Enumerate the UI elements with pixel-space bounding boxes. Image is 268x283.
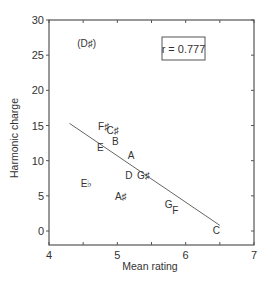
y-tick-label: 5	[38, 190, 44, 202]
point-label: A	[128, 150, 135, 161]
x-tick-label: 7	[251, 249, 257, 261]
y-tick-label: 30	[32, 14, 44, 26]
y-tick-label: 20	[32, 84, 44, 96]
scatter-chart: 051015202530 4567 (D♯)F♯C♯BEADG♯E♭A♯GFC …	[0, 0, 268, 283]
point-label: E♭	[81, 178, 93, 189]
point-label: E	[97, 142, 104, 153]
y-tick-label: 15	[32, 120, 44, 132]
r-value-box: r = 0.777	[162, 37, 206, 60]
data-point-labels: (D♯)F♯C♯BEADG♯E♭A♯GFC	[77, 38, 220, 236]
r-value-label: r = 0.777	[162, 43, 206, 55]
x-tick-label: 5	[114, 249, 120, 261]
point-label: C	[213, 225, 220, 236]
y-axis-ticks: 051015202530	[32, 14, 254, 237]
point-label: C♯	[106, 125, 118, 136]
x-axis-label: Mean rating	[122, 260, 178, 272]
y-tick-label: 0	[38, 225, 44, 237]
point-label: D	[125, 170, 132, 181]
y-tick-label: 10	[32, 155, 44, 167]
plot-border	[49, 20, 254, 245]
x-tick-label: 4	[46, 249, 52, 261]
point-label: F	[172, 205, 178, 216]
point-label: G♯	[137, 170, 150, 181]
x-axis-ticks: 4567	[46, 20, 257, 261]
plot-frame	[49, 20, 254, 245]
y-tick-label: 25	[32, 49, 44, 61]
point-label: B	[112, 136, 119, 147]
x-tick-label: 6	[183, 249, 189, 261]
point-label: (D♯)	[77, 38, 96, 49]
y-axis-label: Harmonic charge	[8, 98, 20, 178]
point-label: A♯	[115, 191, 127, 202]
